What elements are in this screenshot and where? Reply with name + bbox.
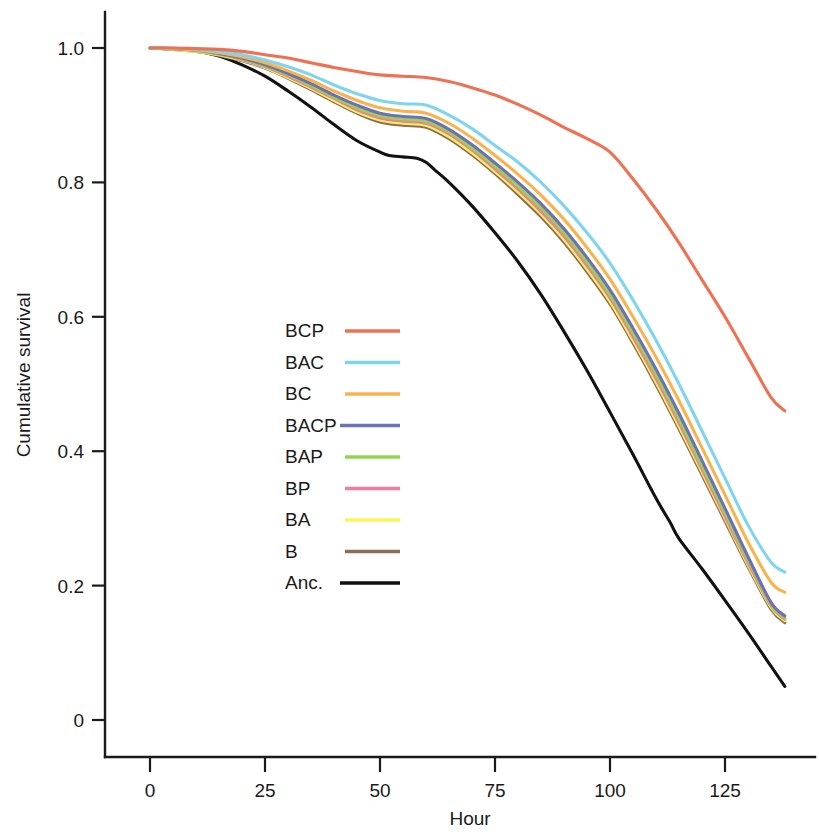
series-line-bac	[150, 48, 785, 572]
legend-label-bc: BC	[285, 383, 311, 404]
survival-chart-figure: 00.20.40.60.81.0 0255075100125 Cumulativ…	[0, 0, 819, 835]
y-axis-tick-labels: 00.20.40.60.81.0	[58, 38, 85, 731]
x-tick-label: 125	[709, 780, 741, 801]
x-tick-label: 100	[594, 780, 626, 801]
series-line-bcp	[150, 48, 785, 411]
y-tick-label: 0.8	[58, 172, 84, 193]
legend-label-bp: BP	[285, 478, 310, 499]
x-tick-label: 50	[369, 780, 390, 801]
series-lines	[150, 48, 785, 686]
y-tick-label: 0	[73, 710, 84, 731]
legend-label-bac: BAC	[285, 352, 324, 373]
x-axis-title: Hour	[449, 808, 491, 829]
y-axis-title: Cumulative survival	[13, 293, 34, 458]
legend-label-bap: BAP	[285, 446, 323, 467]
x-axis-ticks	[150, 757, 725, 772]
series-line-bc	[150, 48, 785, 592]
y-tick-label: 0.4	[58, 441, 85, 462]
legend-label-bcp: BCP	[285, 320, 324, 341]
y-tick-label: 0.2	[58, 576, 84, 597]
chart-legend: BCPBACBCBACPBAPBPBABAnc.	[285, 320, 400, 593]
x-tick-label: 75	[484, 780, 505, 801]
y-tick-label: 1.0	[58, 38, 84, 59]
legend-label-ba: BA	[285, 509, 311, 530]
x-axis-tick-labels: 0255075100125	[145, 780, 741, 801]
x-tick-label: 0	[145, 780, 156, 801]
legend-label-anc: Anc.	[285, 572, 323, 593]
plot-area: 00.20.40.60.81.0 0255075100125 Cumulativ…	[0, 0, 819, 835]
y-tick-label: 0.6	[58, 307, 84, 328]
legend-label-b: B	[285, 541, 298, 562]
x-tick-label: 25	[254, 780, 275, 801]
legend-label-bacp: BACP	[285, 415, 337, 436]
y-axis-ticks	[92, 48, 105, 720]
